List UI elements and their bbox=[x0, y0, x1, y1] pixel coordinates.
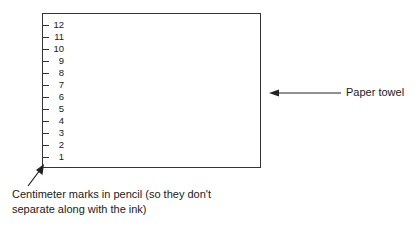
pencil-marks-label-line2: separate along with the ink) bbox=[12, 202, 147, 217]
pencil-marks-label-line1: Centimeter marks in pencil (so they don'… bbox=[12, 187, 211, 202]
arrow-left-icon bbox=[269, 90, 341, 97]
paper-towel-label: Paper towel bbox=[346, 85, 404, 100]
arrow-up-right-icon bbox=[28, 164, 44, 186]
